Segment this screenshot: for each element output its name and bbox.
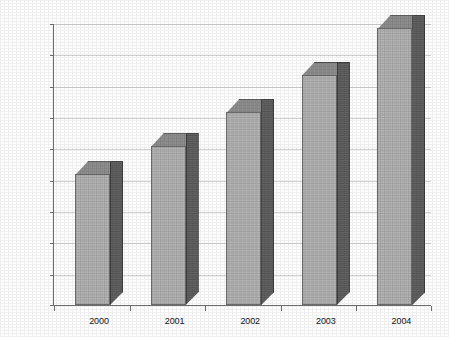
y-tick-200 bbox=[50, 181, 54, 182]
x-axis-label-2001: 2001 bbox=[143, 316, 207, 326]
x-tick-4 bbox=[356, 306, 357, 311]
x-tick-3 bbox=[281, 306, 282, 311]
y-tick-350 bbox=[50, 87, 54, 88]
gridline-350 bbox=[54, 87, 431, 88]
y-tick-450 bbox=[50, 24, 54, 25]
bar-2001 bbox=[151, 146, 199, 305]
x-tick-0 bbox=[54, 306, 55, 311]
bar-2000 bbox=[75, 174, 123, 305]
x-axis-label-2004: 2004 bbox=[369, 316, 433, 326]
plot-area: $450 $400 $350 $300 $250 $200 $150 $100 … bbox=[53, 24, 431, 306]
x-tick-5 bbox=[431, 306, 432, 311]
x-axis-label-2002: 2002 bbox=[218, 316, 282, 326]
bar-2004-side bbox=[412, 15, 425, 305]
bar-2003 bbox=[302, 75, 350, 305]
bar-2002 bbox=[226, 112, 274, 305]
bar-2003-front bbox=[302, 75, 337, 305]
bar-2001-side bbox=[186, 133, 199, 305]
gridline-0 bbox=[54, 305, 431, 306]
bar-2000-side bbox=[110, 161, 123, 305]
bar-2000-front bbox=[75, 174, 110, 305]
x-axis-label-2003: 2003 bbox=[294, 316, 358, 326]
x-tick-2 bbox=[205, 306, 206, 311]
y-tick-150 bbox=[50, 212, 54, 213]
gridline-400 bbox=[54, 55, 431, 56]
y-tick-50 bbox=[50, 275, 54, 276]
x-axis-label-2000: 2000 bbox=[67, 316, 131, 326]
bar-2001-front bbox=[151, 146, 186, 305]
bar-2003-side bbox=[337, 62, 350, 305]
bar-chart: $450 $400 $350 $300 $250 $200 $150 $100 … bbox=[0, 0, 449, 337]
x-tick-1 bbox=[130, 306, 131, 311]
bar-2004-front bbox=[377, 28, 412, 305]
y-tick-100 bbox=[50, 243, 54, 244]
gridline-450 bbox=[54, 24, 431, 25]
bar-2002-side bbox=[261, 99, 274, 305]
y-tick-300 bbox=[50, 118, 54, 119]
y-tick-400 bbox=[50, 55, 54, 56]
y-tick-250 bbox=[50, 149, 54, 150]
bar-2004 bbox=[377, 28, 425, 305]
bar-2002-front bbox=[226, 112, 261, 305]
